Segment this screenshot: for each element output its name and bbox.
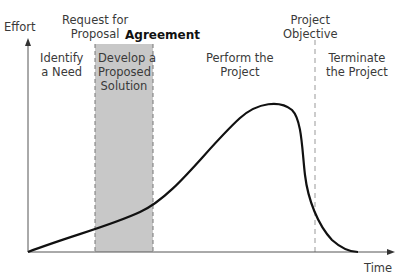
life-cycle-diagram — [0, 0, 412, 279]
phase-perform-project: Perform the Project — [206, 51, 274, 79]
effort-curve — [28, 104, 358, 252]
phase-line: a Need — [40, 65, 83, 79]
rfp-line1: Request for — [62, 13, 128, 27]
phase-line: Project — [206, 65, 274, 79]
objective-milestone-label: Project Objective — [283, 13, 338, 41]
y-axis-label: Effort — [4, 20, 35, 34]
x-axis-arrow-icon — [387, 249, 395, 255]
phase-identify-need: Identify a Need — [40, 51, 83, 79]
phase-line: Solution — [98, 79, 150, 93]
phase-terminate-project: Terminate the Project — [326, 51, 388, 79]
phase-line: Develop a — [98, 51, 150, 65]
phase-line: Identify — [40, 51, 83, 65]
objective-line2: Objective — [283, 27, 338, 41]
rfp-line2: Proposal — [62, 27, 128, 41]
phase-line: the Project — [326, 65, 388, 79]
agreement-milestone-label: Agreement — [125, 28, 200, 42]
phase-line: Terminate — [326, 51, 388, 65]
objective-line1: Project — [283, 13, 338, 27]
rfp-milestone-label: Request for Proposal — [62, 13, 128, 41]
phase-develop-solution: Develop a Proposed Solution — [98, 51, 150, 93]
x-axis-label: Time — [364, 261, 392, 275]
y-axis-arrow-icon — [25, 38, 31, 46]
phase-line: Proposed — [98, 65, 150, 79]
phase-line: Perform the — [206, 51, 274, 65]
